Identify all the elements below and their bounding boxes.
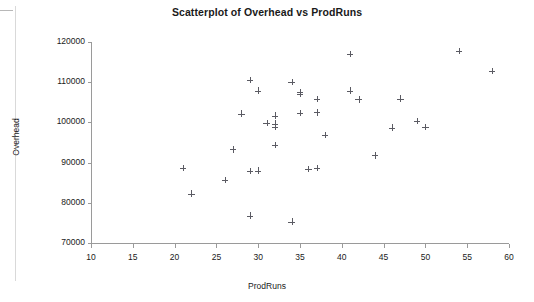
data-point-marker <box>347 51 353 57</box>
x-axis-tick-label: 25 <box>196 252 236 262</box>
scatterplot: 700008000090000100000110000120000 101520… <box>0 0 534 302</box>
data-point-marker <box>230 146 236 152</box>
chart-data-markers <box>180 48 496 225</box>
x-axis-tick-label: 50 <box>405 252 445 262</box>
data-point-marker <box>255 87 261 93</box>
x-axis-tick-label: 55 <box>447 252 487 262</box>
data-point-marker <box>489 68 495 74</box>
data-point-marker <box>272 142 278 148</box>
x-axis-tick-label: 10 <box>71 252 111 262</box>
data-point-marker <box>247 168 253 174</box>
data-point-marker <box>355 96 361 102</box>
x-axis-title: ProdRuns <box>0 281 534 291</box>
data-point-marker <box>397 95 403 101</box>
data-point-marker <box>297 91 303 97</box>
data-point-marker <box>314 109 320 115</box>
data-point-marker <box>255 167 261 173</box>
data-point-marker <box>247 77 253 83</box>
x-axis-tick-label: 20 <box>155 252 195 262</box>
data-point-marker <box>188 190 194 196</box>
data-point-marker <box>314 165 320 171</box>
data-point-marker <box>297 110 303 116</box>
data-point-marker <box>247 212 253 218</box>
y-axis-tick-label: 100000 <box>37 116 85 126</box>
y-axis-tick-label: 70000 <box>37 237 85 247</box>
x-axis-tick-label: 35 <box>280 252 320 262</box>
y-axis-tick-label: 90000 <box>37 157 85 167</box>
data-point-marker <box>422 124 428 130</box>
data-point-marker <box>314 96 320 102</box>
data-point-marker <box>372 152 378 158</box>
y-axis-tick-label: 80000 <box>37 197 85 207</box>
data-point-marker <box>272 124 278 130</box>
x-axis-tick-label: 45 <box>364 252 404 262</box>
data-point-marker <box>288 79 294 85</box>
data-point-marker <box>288 218 294 224</box>
data-point-marker <box>180 165 186 171</box>
data-point-marker <box>222 177 228 183</box>
data-point-marker <box>272 120 278 126</box>
data-point-marker <box>305 166 311 172</box>
x-axis-tick-label: 40 <box>322 252 362 262</box>
data-point-marker <box>272 112 278 118</box>
x-axis-tick-label: 60 <box>489 252 529 262</box>
y-axis-tick-label: 120000 <box>37 36 85 46</box>
data-point-marker <box>322 132 328 138</box>
x-axis-tick-label: 15 <box>113 252 153 262</box>
data-point-marker <box>414 118 420 124</box>
data-point-marker <box>263 120 269 126</box>
data-point-marker <box>456 48 462 54</box>
chart-page: Scatterplot of Overhead vs ProdRuns 7000… <box>0 0 534 302</box>
x-axis-tick-label: 30 <box>238 252 278 262</box>
data-point-marker <box>347 87 353 93</box>
data-point-marker <box>238 110 244 116</box>
y-axis-title: Overhead <box>11 97 21 177</box>
data-point-marker <box>389 124 395 130</box>
chart-axes <box>88 42 510 248</box>
y-axis-tick-label: 110000 <box>37 76 85 86</box>
